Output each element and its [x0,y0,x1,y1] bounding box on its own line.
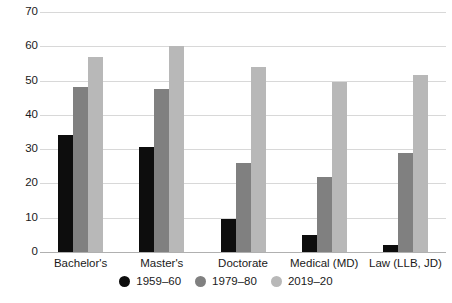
y-axis-tick-label: 50 [8,75,38,87]
bar[interactable] [88,57,103,252]
x-axis-category-label: Medical (MD) [284,256,365,270]
bar[interactable] [236,163,251,252]
legend-swatch-circle-icon [195,276,206,287]
grouped-bar-chart: 010203040506070 Bachelor'sMaster'sDoctor… [0,0,452,303]
bar[interactable] [383,245,398,252]
gridline [40,252,446,253]
y-axis-tick-label: 70 [8,6,38,18]
bar-groups [40,12,446,252]
bar-group [40,12,121,252]
bar[interactable] [221,219,236,252]
y-axis-tick-label: 20 [8,177,38,189]
bar[interactable] [251,67,266,252]
bar[interactable] [332,82,347,252]
y-axis-tick-label: 60 [8,40,38,52]
bar[interactable] [154,89,169,252]
x-axis-category-label: Law (LLB, JD) [365,256,446,270]
bar-group [202,12,283,252]
bar-group [365,12,446,252]
legend-item[interactable]: 1979–80 [195,276,257,288]
legend-label: 2019–20 [288,276,333,288]
bar[interactable] [398,153,413,252]
x-axis-category-labels: Bachelor'sMaster'sDoctorateMedical (MD)L… [40,256,446,270]
plot-area [40,12,446,252]
legend-item[interactable]: 2019–20 [271,276,333,288]
x-axis-category-label: Doctorate [202,256,283,270]
x-axis-category-label: Bachelor's [40,256,121,270]
y-axis-tick-label: 10 [8,212,38,224]
legend-label: 1959–60 [136,276,181,288]
bar[interactable] [58,135,73,252]
legend-swatch-circle-icon [119,276,130,287]
bar-group [284,12,365,252]
x-axis-category-label: Master's [121,256,202,270]
legend-swatch-circle-icon [271,276,282,287]
y-axis-tick-label: 30 [8,143,38,155]
legend-label: 1979–80 [212,276,257,288]
bar[interactable] [302,235,317,252]
y-axis-tick-label: 40 [8,109,38,121]
bar[interactable] [139,147,154,252]
bar-group [121,12,202,252]
bar[interactable] [73,87,88,252]
bar[interactable] [169,46,184,252]
legend-item[interactable]: 1959–60 [119,276,181,288]
bar[interactable] [413,75,428,252]
chart-legend: 1959–601979–802019–20 [0,276,452,288]
bar[interactable] [317,177,332,252]
y-axis-tick-label: 0 [8,246,38,258]
